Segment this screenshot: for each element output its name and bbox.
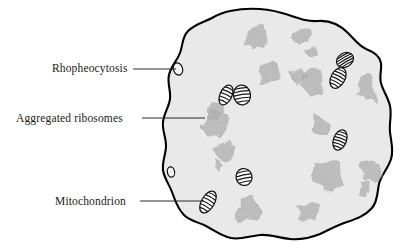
label-text-mitochondrion: Mitochondrion bbox=[55, 195, 126, 207]
label-text-aggregated-ribosomes: Aggregated ribosomes bbox=[16, 112, 123, 125]
label-text-rhopheocytosis: Rhopheocytosis bbox=[52, 62, 128, 75]
cell-membrane bbox=[163, 9, 392, 239]
cell-diagram: RhopheocytosisAggregated ribosomesMitoch… bbox=[0, 0, 414, 250]
label-rhopheocytosis: Rhopheocytosis bbox=[52, 62, 176, 75]
cell-membrane-group bbox=[163, 9, 392, 239]
